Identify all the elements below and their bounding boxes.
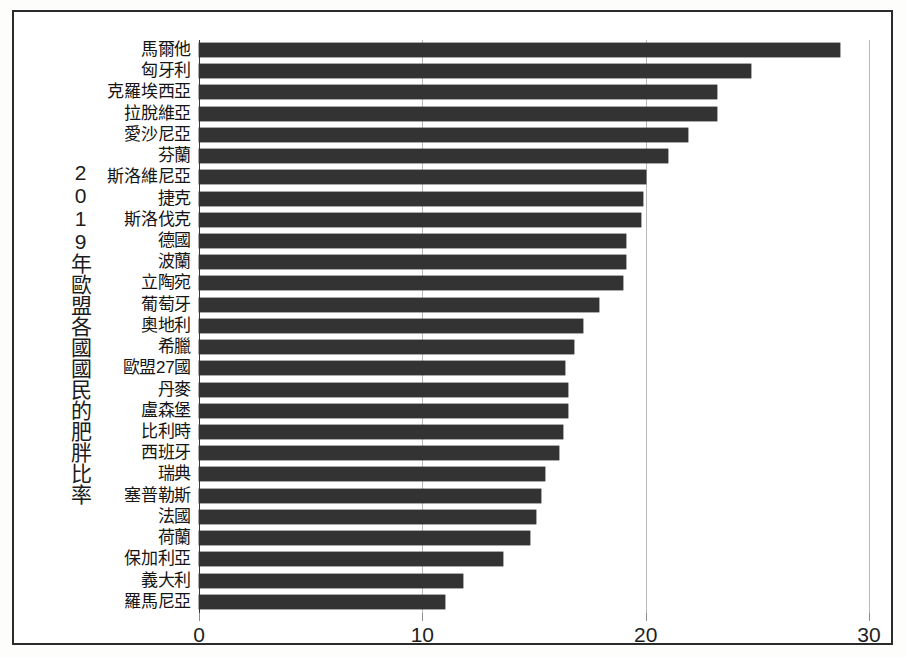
category-label: 羅馬尼亞 (124, 592, 191, 612)
bar-row[interactable] (199, 40, 869, 60)
category-label: 德國 (158, 231, 191, 251)
bar-row[interactable] (199, 507, 869, 527)
category-label: 義大利 (141, 571, 191, 591)
category-label: 盧森堡 (141, 401, 191, 421)
x-tick-mark-10 (422, 613, 423, 621)
bar[interactable] (199, 574, 463, 588)
x-tick-mark-30 (869, 613, 870, 621)
bar[interactable] (199, 107, 717, 121)
bar-row[interactable] (199, 592, 869, 612)
bar[interactable] (199, 255, 626, 269)
bar[interactable] (199, 425, 563, 439)
category-label: 芬蘭 (158, 146, 191, 166)
bar-row[interactable] (199, 252, 869, 272)
x-tick-label-0: 0 (193, 623, 205, 647)
bar-row[interactable] (199, 61, 869, 81)
bar[interactable] (199, 489, 541, 503)
x-tick-mark-0 (199, 613, 200, 621)
bar-row[interactable] (199, 464, 869, 484)
category-label: 葡萄牙 (141, 295, 191, 315)
x-tick-mark-20 (646, 613, 647, 621)
x-tick-label-20: 20 (634, 623, 657, 647)
bar-row[interactable] (199, 104, 869, 124)
bar[interactable] (199, 276, 623, 290)
category-label: 奧地利 (141, 316, 191, 336)
bar[interactable] (199, 234, 626, 248)
bar[interactable] (199, 467, 545, 481)
bar-row[interactable] (199, 549, 869, 569)
category-label: 斯洛維尼亞 (107, 167, 191, 187)
bar-row[interactable] (199, 231, 869, 251)
bar[interactable] (199, 149, 668, 163)
bar-row[interactable] (199, 125, 869, 145)
bar[interactable] (199, 213, 641, 227)
bar-row[interactable] (199, 167, 869, 187)
bar[interactable] (199, 64, 751, 78)
bar[interactable] (199, 531, 530, 545)
category-label: 希臘 (158, 337, 191, 357)
category-label: 匈牙利 (141, 61, 191, 81)
category-label: 保加利亞 (124, 549, 191, 569)
gridline-30 (869, 40, 870, 613)
category-label: 荷蘭 (158, 528, 191, 548)
bar[interactable] (199, 552, 503, 566)
bar-row[interactable] (199, 486, 869, 506)
x-tick-label-30: 30 (857, 623, 880, 647)
bar-row[interactable] (199, 422, 869, 442)
category-label: 斯洛伐克 (124, 210, 191, 230)
scan-artifact-text (14, 648, 894, 657)
category-label: 馬爾他 (141, 40, 191, 60)
bar-row[interactable] (199, 273, 869, 293)
category-label: 比利時 (141, 422, 191, 442)
x-tick-label-10: 10 (411, 623, 434, 647)
bar[interactable] (199, 404, 568, 418)
bar-row[interactable] (199, 210, 869, 230)
bar[interactable] (199, 319, 583, 333)
bar[interactable] (199, 128, 688, 142)
y-axis-category-labels: 馬爾他匈牙利克羅埃西亞拉脫維亞愛沙尼亞芬蘭斯洛維尼亞捷克斯洛伐克德國波蘭立陶宛葡… (14, 40, 197, 613)
scanned-page: 2019年歐盟各國國民的肥胖比率 馬爾他匈牙利克羅埃西亞拉脫維亞愛沙尼亞芬蘭斯洛… (0, 0, 906, 657)
bar[interactable] (199, 446, 559, 460)
bar-row[interactable] (199, 358, 869, 378)
bar-row[interactable] (199, 528, 869, 548)
chart-frame: 2019年歐盟各國國民的肥胖比率 馬爾他匈牙利克羅埃西亞拉脫維亞愛沙尼亞芬蘭斯洛… (12, 10, 893, 645)
bar[interactable] (199, 298, 599, 312)
plot-area (199, 40, 869, 613)
category-label: 丹麥 (158, 380, 191, 400)
bar[interactable] (199, 510, 536, 524)
bar[interactable] (199, 85, 717, 99)
bar-row[interactable] (199, 401, 869, 421)
bar-row[interactable] (199, 316, 869, 336)
bar-row[interactable] (199, 571, 869, 591)
bar[interactable] (199, 43, 840, 57)
category-label: 捷克 (158, 189, 191, 209)
bar-row[interactable] (199, 295, 869, 315)
bar[interactable] (199, 383, 568, 397)
bar-row[interactable] (199, 337, 869, 357)
bar-row[interactable] (199, 146, 869, 166)
bar[interactable] (199, 192, 643, 206)
category-label: 歐盟27國 (123, 358, 191, 378)
category-label: 西班牙 (141, 443, 191, 463)
category-label: 塞普勒斯 (124, 486, 191, 506)
bar-row[interactable] (199, 189, 869, 209)
bar-row[interactable] (199, 380, 869, 400)
category-label: 拉脫維亞 (124, 104, 191, 124)
bar[interactable] (199, 340, 574, 354)
bar[interactable] (199, 595, 445, 609)
bar[interactable] (199, 170, 646, 184)
category-label: 克羅埃西亞 (107, 82, 191, 102)
category-label: 愛沙尼亞 (124, 125, 191, 145)
category-label: 立陶宛 (141, 273, 191, 293)
bar-row[interactable] (199, 443, 869, 463)
category-label: 瑞典 (158, 464, 191, 484)
bar-row[interactable] (199, 82, 869, 102)
category-label: 波蘭 (158, 252, 191, 272)
bar[interactable] (199, 361, 565, 375)
category-label: 法國 (158, 507, 191, 527)
